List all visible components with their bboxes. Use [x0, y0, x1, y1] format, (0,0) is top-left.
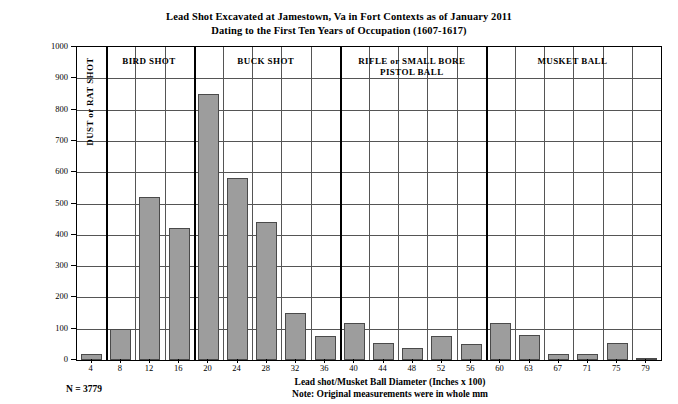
- x-tick-mark: [645, 359, 646, 363]
- x-tick-label: 71: [572, 364, 602, 373]
- x-gridline: [515, 47, 516, 360]
- x-tick-label: 32: [280, 364, 310, 373]
- bar: [431, 336, 452, 360]
- x-tick-label: 24: [222, 364, 252, 373]
- x-tick-label: 48: [397, 364, 427, 373]
- bar: [461, 344, 482, 360]
- page-subtitle: Dating to the First Ten Years of Occupat…: [0, 24, 678, 38]
- chart-title-block: Lead Shot Excavated at Jamestown, Va in …: [0, 10, 678, 38]
- x-axis-title: Lead shot/Musket Ball Diameter (Inches x…: [180, 376, 600, 388]
- x-tick-label: 4: [76, 364, 106, 373]
- y-tick-mark: [71, 77, 76, 78]
- bar: [373, 343, 394, 360]
- x-tick-label: 60: [484, 364, 514, 373]
- y-tick-label: 200: [28, 292, 68, 301]
- x-gridline: [398, 47, 399, 360]
- y-tick-mark: [71, 109, 76, 110]
- measurement-note: Note: Original measurements were in whol…: [180, 388, 600, 400]
- y-tick-label: 900: [28, 73, 68, 82]
- group-label: DUST or RAT SHOT: [85, 47, 96, 156]
- x-axis-caption: Lead shot/Musket Ball Diameter (Inches x…: [180, 376, 600, 400]
- bar: [607, 343, 628, 360]
- x-tick-label: 67: [543, 364, 573, 373]
- sample-size-label: N = 3779: [66, 384, 102, 394]
- x-tick-label: 12: [134, 364, 164, 373]
- x-gridline: [632, 47, 633, 360]
- bar: [139, 197, 160, 360]
- x-gridline: [544, 47, 545, 360]
- x-tick-mark: [441, 359, 442, 363]
- group-divider: [194, 47, 196, 360]
- x-tick-label: 75: [601, 364, 631, 373]
- bar: [315, 336, 336, 360]
- x-tick-label: 28: [251, 364, 281, 373]
- x-tick-label: 20: [192, 364, 222, 373]
- x-tick-mark: [207, 359, 208, 363]
- x-gridline: [165, 47, 166, 360]
- x-tick-label: 44: [368, 364, 398, 373]
- y-tick-label: 800: [28, 105, 68, 114]
- x-tick-mark: [353, 359, 354, 363]
- plot-inner: [77, 47, 661, 360]
- x-gridline: [369, 47, 370, 360]
- x-tick-label: 52: [426, 364, 456, 373]
- group-label: MUSKET BALL: [485, 56, 660, 67]
- x-gridline: [603, 47, 604, 360]
- y-tick-label: 400: [28, 230, 68, 239]
- group-label: RIFLE or SMALL BORE PISTOL BALL: [339, 56, 485, 78]
- y-tick-mark: [71, 140, 76, 141]
- y-tick-label: 600: [28, 167, 68, 176]
- group-divider: [106, 47, 108, 360]
- x-gridline: [223, 47, 224, 360]
- bar: [110, 329, 131, 360]
- y-tick-mark: [71, 265, 76, 266]
- y-tick-mark: [71, 234, 76, 235]
- x-tick-label: 63: [514, 364, 544, 373]
- y-tick-label: 100: [28, 324, 68, 333]
- y-tick-label: 1000: [28, 42, 68, 51]
- x-tick-mark: [529, 359, 530, 363]
- group-label: BUCK SHOT: [193, 56, 339, 67]
- x-tick-mark: [120, 359, 121, 363]
- x-tick-mark: [383, 359, 384, 363]
- x-tick-mark: [587, 359, 588, 363]
- x-gridline: [573, 47, 574, 360]
- x-tick-mark: [499, 359, 500, 363]
- bar: [344, 323, 365, 360]
- y-tick-mark: [71, 171, 76, 172]
- x-tick-mark: [470, 359, 471, 363]
- bar: [519, 335, 540, 360]
- group-divider: [486, 47, 488, 360]
- bar: [490, 323, 511, 360]
- bar: [227, 178, 248, 360]
- chart-plot-area: [76, 46, 662, 361]
- y-tick-mark: [71, 359, 76, 360]
- x-gridline: [311, 47, 312, 360]
- x-tick-label: 36: [309, 364, 339, 373]
- y-tick-mark: [71, 296, 76, 297]
- x-tick-mark: [324, 359, 325, 363]
- y-tick-label: 500: [28, 199, 68, 208]
- y-tick-label: 300: [28, 261, 68, 270]
- bar: [198, 94, 219, 360]
- x-gridline: [457, 47, 458, 360]
- y-tick-mark: [71, 46, 76, 47]
- x-tick-mark: [266, 359, 267, 363]
- page-title: Lead Shot Excavated at Jamestown, Va in …: [0, 10, 678, 24]
- bar: [256, 222, 277, 360]
- bar: [169, 228, 190, 360]
- y-tick-mark: [71, 328, 76, 329]
- x-tick-label: 56: [455, 364, 485, 373]
- y-tick-label: 700: [28, 136, 68, 145]
- bar: [636, 358, 657, 360]
- x-gridline: [135, 47, 136, 360]
- x-gridline: [281, 47, 282, 360]
- group-label: BIRD SHOT: [105, 56, 193, 67]
- x-tick-mark: [295, 359, 296, 363]
- x-tick-label: 79: [630, 364, 660, 373]
- x-gridline: [252, 47, 253, 360]
- x-tick-label: 40: [338, 364, 368, 373]
- group-divider: [340, 47, 342, 360]
- x-tick-mark: [91, 359, 92, 363]
- x-gridline: [427, 47, 428, 360]
